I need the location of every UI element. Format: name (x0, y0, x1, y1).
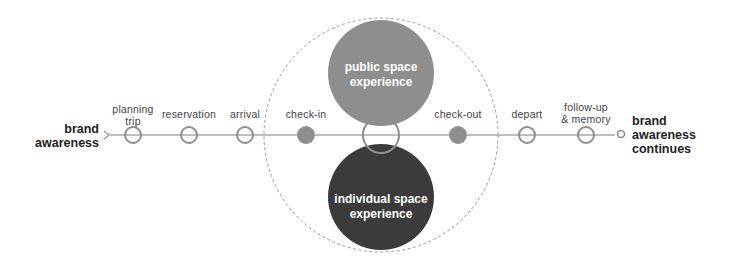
end-label-brand-awareness-continues: brand awareness continues (632, 114, 696, 156)
start-label-brand-awareness: brand awareness (35, 122, 99, 150)
public-space-label: public space experience (345, 60, 418, 90)
stage-label-planning-trip: planning trip (112, 103, 153, 127)
individual-space-label: individual space experience (334, 192, 427, 222)
stage-label-check-in: check-in (286, 108, 327, 120)
arrow-icon (104, 131, 109, 139)
stage-label-reservation: reservation (162, 108, 216, 120)
stage-label-follow-up-memory: follow-up & memory (561, 101, 610, 125)
node-planning-trip (125, 127, 141, 143)
stage-label-arrival: arrival (230, 108, 260, 120)
node-check-out (449, 126, 467, 144)
node-end (618, 131, 625, 138)
stage-label-depart: depart (512, 108, 543, 120)
node-check-in (297, 126, 315, 144)
stage-label-check-out: check-out (434, 108, 481, 120)
customer-journey-diagram (0, 0, 729, 268)
